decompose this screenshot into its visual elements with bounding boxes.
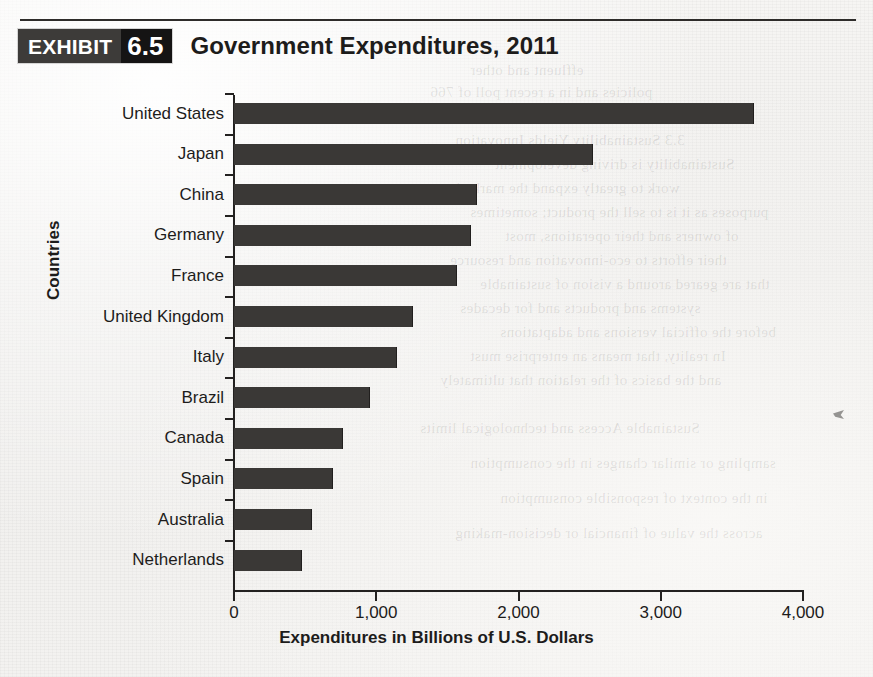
y-tick-label-germany: Germany <box>154 226 224 243</box>
x-tick-label-2000: 2,000 <box>497 603 540 623</box>
y-tick-label-china: China <box>180 186 224 203</box>
bar-brazil <box>234 387 370 408</box>
y-axis-tick <box>225 256 234 258</box>
y-tick-label-france: France <box>171 267 224 284</box>
x-axis-tick <box>375 592 377 601</box>
bar-china <box>234 184 477 205</box>
y-tick-label-brazil: Brazil <box>181 389 224 406</box>
y-axis-tick <box>225 499 234 501</box>
bar-united-states <box>234 103 754 124</box>
x-axis-tick <box>518 592 520 601</box>
plot-area <box>234 95 803 587</box>
y-axis-tick <box>225 134 234 136</box>
y-axis-tick <box>225 377 234 379</box>
y-axis-tick <box>225 418 234 420</box>
bar-germany <box>234 225 471 246</box>
y-tick-label-united-kingdom: United Kingdom <box>103 308 224 325</box>
x-axis-title: Expenditures in Billions of U.S. Dollars <box>0 628 873 648</box>
x-tick-label-3000: 3,000 <box>639 603 682 623</box>
x-axis-tick <box>233 592 235 601</box>
y-tick-label-spain: Spain <box>181 470 224 487</box>
y-axis-title: Countries <box>44 221 64 300</box>
y-tick-label-italy: Italy <box>193 348 224 365</box>
y-tick-label-australia: Australia <box>158 511 224 528</box>
x-axis-tick <box>802 592 804 601</box>
y-axis-tick <box>225 337 234 339</box>
x-axis-tick <box>660 592 662 601</box>
bar-united-kingdom <box>234 306 413 327</box>
y-axis-tick <box>225 174 234 176</box>
y-axis-tick <box>225 215 234 217</box>
bar-canada <box>234 428 343 449</box>
x-tick-label-4000: 4,000 <box>782 603 825 623</box>
bar-netherlands <box>234 550 302 571</box>
bar-japan <box>234 144 593 165</box>
y-axis-tick <box>225 296 234 298</box>
y-axis-tick <box>225 540 234 542</box>
y-tick-label-united-states: United States <box>122 105 224 122</box>
y-tick-label-netherlands: Netherlands <box>132 551 224 568</box>
bar-italy <box>234 347 397 368</box>
x-tick-label-1000: 1,000 <box>355 603 398 623</box>
y-axis-tick <box>225 459 234 461</box>
bar-chart: Countries Expenditures in Billions of U.… <box>0 0 873 677</box>
exhibit-page: effluent and otherpolicies and in a rece… <box>0 0 873 677</box>
bar-australia <box>234 509 312 530</box>
bar-spain <box>234 468 333 489</box>
y-tick-label-canada: Canada <box>164 429 224 446</box>
y-tick-label-japan: Japan <box>178 145 224 162</box>
x-tick-label-0: 0 <box>229 603 238 623</box>
bar-france <box>234 265 457 286</box>
y-axis-tick <box>225 93 234 95</box>
